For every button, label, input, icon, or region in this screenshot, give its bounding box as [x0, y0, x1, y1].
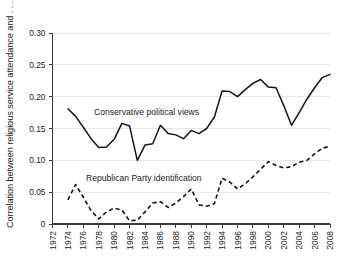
x-tick-label: 1982	[125, 231, 135, 250]
x-tick-label: 1990	[186, 231, 196, 250]
y-axis-label: Correlation between religious service at…	[5, 1, 15, 228]
x-tick-label: 1992	[202, 231, 212, 250]
x-tick-label: 1988	[171, 231, 181, 250]
x-tick-label: 1978	[94, 231, 104, 250]
x-tick-label: 2008	[325, 231, 335, 250]
x-tick-label: 1998	[248, 231, 258, 250]
x-tick-label: 2004	[294, 231, 304, 250]
y-tick-label: 0.25	[29, 60, 46, 70]
x-tick-label: 1994	[217, 231, 227, 250]
y-tick-label: 0.15	[29, 124, 46, 134]
x-tick-label: 1974	[63, 231, 73, 250]
series-annotation-republican: Republican Party identification	[86, 173, 202, 183]
line-chart: 00.050.100.150.200.250.30 19721974197619…	[0, 0, 340, 270]
x-tick-label: 2000	[263, 231, 273, 250]
y-tick-label: 0.05	[29, 187, 46, 197]
x-tick-label: 1980	[109, 231, 119, 250]
chart-background	[0, 0, 340, 270]
x-tick-label: 1996	[233, 231, 243, 250]
y-tick-label: 0.30	[29, 28, 46, 38]
y-tick-label: 0.20	[29, 92, 46, 102]
series-annotation-conservative: Conservative political views	[94, 107, 199, 117]
x-tick-label: 1984	[140, 231, 150, 250]
x-tick-label: 1986	[155, 231, 165, 250]
y-tick-label: 0.10	[29, 155, 46, 165]
x-tick-label: 1976	[78, 231, 88, 250]
x-tick-label: 2002	[279, 231, 289, 250]
x-tick-label: 1972	[48, 231, 58, 250]
x-tick-label: 2006	[310, 231, 320, 250]
chart-figure: 00.050.100.150.200.250.30 19721974197619…	[0, 0, 340, 270]
y-tick-label: 0	[41, 219, 46, 229]
